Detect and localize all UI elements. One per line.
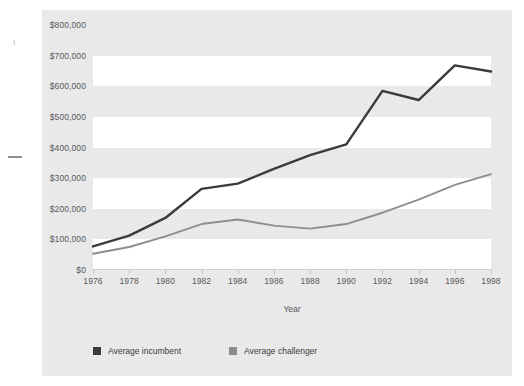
y-axis-tick-label: $100,000	[50, 234, 86, 244]
x-axis-tick-label: 1984	[228, 276, 247, 286]
x-axis-tick-label: 1976	[83, 276, 102, 286]
x-axis-tick-label: 1990	[337, 276, 356, 286]
page-margin-artifact-text: t	[13, 38, 16, 47]
page-margin-artifact-dash	[8, 156, 22, 158]
x-axis-tick-label: 1998	[481, 276, 500, 286]
x-axis-title: Year	[93, 304, 491, 314]
legend-swatch-icon	[93, 347, 101, 355]
legend-item-label: Average challenger	[244, 346, 317, 356]
x-axis-tick-label: 1986	[264, 276, 283, 286]
chart-line-challenger	[93, 174, 491, 254]
x-axis-tick	[274, 270, 275, 274]
y-axis-tick-label: $0	[76, 265, 86, 275]
x-axis-tick	[455, 270, 456, 274]
y-axis-tick-label: $700,000	[50, 51, 86, 61]
legend-swatch-icon	[229, 347, 237, 355]
x-axis-tick-label: 1988	[300, 276, 319, 286]
x-axis-tick	[238, 270, 239, 274]
chart-figure: $0$100,000$200,000$300,000$400,000$500,0…	[42, 10, 512, 376]
x-axis-tick-label: 1996	[445, 276, 464, 286]
chart-line-incumbent	[93, 65, 491, 246]
y-axis-tick-label: $600,000	[50, 81, 86, 91]
x-axis-tick	[491, 270, 492, 274]
x-axis-tick	[310, 270, 311, 274]
legend-item-label: Average incumbent	[108, 346, 181, 356]
x-axis-tick	[202, 270, 203, 274]
y-axis-tick-label: $400,000	[50, 143, 86, 153]
x-axis-tick	[93, 270, 94, 274]
x-axis-tick	[346, 270, 347, 274]
x-axis-tick	[382, 270, 383, 274]
x-axis-tick-label: 1980	[156, 276, 175, 286]
x-axis-tick	[419, 270, 420, 274]
y-axis-tick-label: $800,000	[50, 20, 86, 30]
x-axis-tick-label: 1994	[409, 276, 428, 286]
chart-series-lines	[93, 25, 491, 270]
page-canvas: t $0$100,000$200,000$300,000$400,000$500…	[0, 0, 524, 386]
legend-item-challenger: Average challenger	[229, 346, 317, 356]
x-axis-tick	[165, 270, 166, 274]
x-axis-tick-label: 1982	[192, 276, 211, 286]
legend-item-incumbent: Average incumbent	[93, 346, 181, 356]
chart-plot-area: $0$100,000$200,000$300,000$400,000$500,0…	[93, 25, 491, 270]
x-axis-tick-label: 1978	[120, 276, 139, 286]
y-axis-tick-label: $200,000	[50, 204, 86, 214]
y-axis-tick-label: $500,000	[50, 112, 86, 122]
x-axis-tick-label: 1992	[373, 276, 392, 286]
chart-legend: Average incumbent Average challenger	[93, 346, 317, 356]
y-axis-tick-label: $300,000	[50, 173, 86, 183]
x-axis-tick	[129, 270, 130, 274]
